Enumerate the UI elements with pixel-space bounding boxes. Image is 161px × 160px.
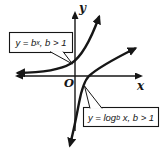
logarithmic-curve xyxy=(70,49,135,146)
exponential-callout-tail xyxy=(50,52,73,64)
exponential-equation-pre: y = b xyxy=(15,37,36,48)
y-axis-label: y xyxy=(79,2,86,14)
exponential-equation-post: , b > 1 xyxy=(40,37,67,48)
function-graph-figure: y x O y = bx, b > 1 y = logb x, b > 1 xyxy=(0,0,161,160)
exponential-callout-text: y = bx, b > 1 xyxy=(9,32,73,53)
logarithmic-callout-text: y = logb x, b > 1 xyxy=(83,107,159,127)
logarithmic-equation-post: x, b > 1 xyxy=(120,112,154,123)
origin-label: O xyxy=(64,78,74,90)
logarithmic-callout-tail xyxy=(85,86,103,108)
x-axis-label: x xyxy=(137,80,144,92)
logarithmic-equation-pre: y = log xyxy=(88,112,116,123)
